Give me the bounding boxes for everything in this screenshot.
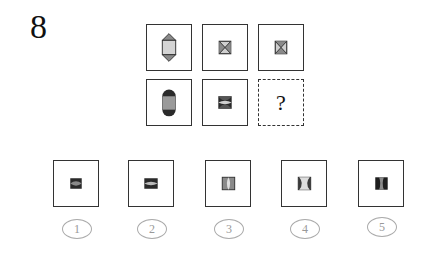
option-label-4[interactable]: 4 (290, 219, 320, 239)
option-5[interactable] (358, 160, 404, 207)
question-number: 8 (30, 8, 47, 46)
grid-cell-r1c2 (202, 24, 248, 71)
grid-cell-unknown: ? (258, 79, 304, 126)
question-mark: ? (259, 90, 303, 116)
grid-cell-r1c1 (146, 24, 192, 71)
option-2[interactable] (128, 160, 174, 207)
square-x-icon (259, 25, 303, 70)
option-label-3[interactable]: 3 (214, 219, 244, 239)
hourglass-vertical-icon (282, 161, 326, 206)
square-x-icon (203, 25, 247, 70)
grid-cell-r2c2 (202, 79, 248, 126)
hourglass-horizontal-icon (54, 161, 98, 206)
hexagon-arrows-icon (147, 25, 191, 70)
option-label-1[interactable]: 1 (62, 219, 92, 239)
grid-cell-r2c1 (146, 79, 192, 126)
hourglass-horizontal-icon (129, 161, 173, 206)
hourglass-icon (203, 80, 247, 125)
option-1[interactable] (53, 160, 99, 207)
option-label-5[interactable]: 5 (367, 217, 397, 237)
capsule-icon (147, 80, 191, 125)
option-4[interactable] (281, 160, 327, 207)
hourglass-vertical-icon (206, 161, 250, 206)
hourglass-vertical-icon (359, 161, 403, 206)
option-label-2[interactable]: 2 (137, 219, 167, 239)
grid-cell-r1c3 (258, 24, 304, 71)
option-3[interactable] (205, 160, 251, 207)
